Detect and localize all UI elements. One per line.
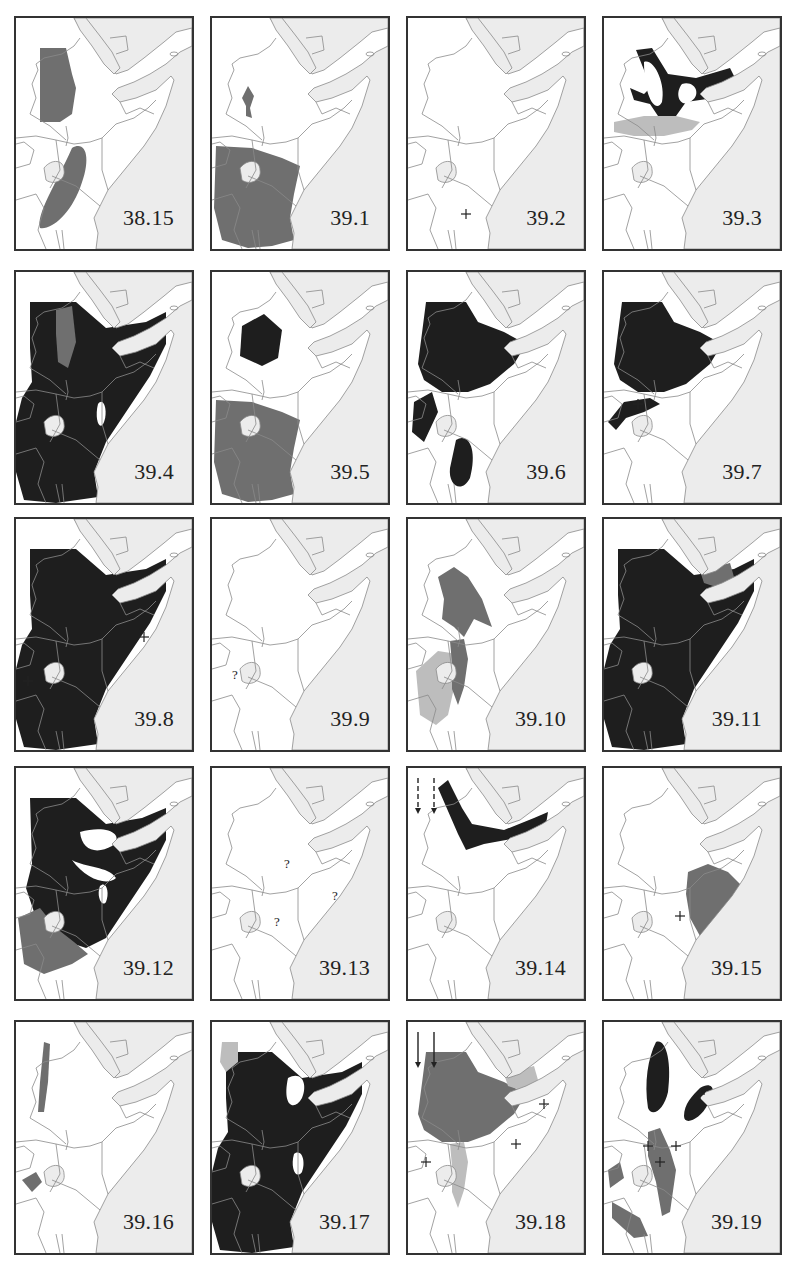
map-panel-39-12: 39.12: [14, 766, 194, 1001]
lake-victoria: [44, 415, 64, 436]
map-label: 39.3: [722, 205, 762, 231]
map-label: 39.4: [134, 459, 174, 485]
map-label: 39.10: [515, 706, 566, 732]
map-panel-39-5: 39.5: [210, 270, 390, 505]
lake-victoria: [240, 911, 260, 932]
map-label: 39.17: [319, 1209, 370, 1235]
lake-victoria: [44, 161, 64, 182]
map-label: 39.15: [711, 955, 762, 981]
question-mark-icon: ?: [274, 914, 280, 929]
lake-victoria: [240, 1165, 260, 1186]
map-label: 39.14: [515, 955, 566, 981]
map-label: 39.19: [711, 1209, 762, 1235]
map-label: 39.13: [319, 955, 370, 981]
question-mark-icon: ?: [232, 667, 238, 682]
lake-victoria: [436, 415, 456, 436]
lake-victoria: [436, 662, 456, 683]
map-panel-38-15: 38.15: [14, 16, 194, 251]
map-panel-39-9: ? 39.9: [210, 517, 390, 752]
map-panel-39-7: 39.7: [602, 270, 782, 505]
map-label: 39.9: [330, 706, 370, 732]
map-label: 39.12: [123, 955, 174, 981]
lake-victoria: [44, 662, 64, 683]
map-panel-39-1: 39.1: [210, 16, 390, 251]
lake-victoria: [240, 662, 260, 683]
lake-victoria: [44, 911, 64, 932]
map-label: 39.16: [123, 1209, 174, 1235]
map-label: 39.7: [722, 459, 762, 485]
map-panel-39-13: ??? 39.13: [210, 766, 390, 1001]
map-panel-39-2: 39.2: [406, 16, 586, 251]
lake-victoria: [436, 161, 456, 182]
map-panel-39-6: 39.6: [406, 270, 586, 505]
map-label: 39.1: [330, 205, 370, 231]
question-mark-icon: ?: [332, 888, 338, 903]
map-panel-39-10: 39.10: [406, 517, 586, 752]
map-label: 39.5: [330, 459, 370, 485]
map-panel-39-15: 39.15: [602, 766, 782, 1001]
map-label: 39.11: [712, 706, 762, 732]
map-panel-39-3: 39.3: [602, 16, 782, 251]
lake-victoria: [44, 1165, 64, 1186]
map-label: 39.6: [526, 459, 566, 485]
map-panel-39-19: 39.19: [602, 1020, 782, 1255]
map-panel-39-11: 39.11: [602, 517, 782, 752]
lake-victoria: [436, 1165, 456, 1186]
lake-victoria: [632, 415, 652, 436]
lake-victoria: [632, 911, 652, 932]
lake-victoria: [632, 161, 652, 182]
lake-victoria: [240, 415, 260, 436]
lake-victoria: [632, 662, 652, 683]
map-grid: 38.15 39.1 39.2 39.3: [0, 0, 794, 1277]
map-label: 39.2: [526, 205, 566, 231]
map-panel-39-8: 39.8: [14, 517, 194, 752]
lake-victoria: [240, 161, 260, 182]
map-label: 39.18: [515, 1209, 566, 1235]
map-panel-39-17: 39.17: [210, 1020, 390, 1255]
map-panel-39-16: 39.16: [14, 1020, 194, 1255]
map-label: 38.15: [123, 205, 174, 231]
map-panel-39-18: 39.18: [406, 1020, 586, 1255]
lake-victoria: [436, 911, 456, 932]
question-mark-icon: ?: [284, 856, 290, 871]
map-panel-39-14: 39.14: [406, 766, 586, 1001]
lake-victoria: [632, 1165, 652, 1186]
map-panel-39-4: 39.4: [14, 270, 194, 505]
map-label: 39.8: [134, 706, 174, 732]
